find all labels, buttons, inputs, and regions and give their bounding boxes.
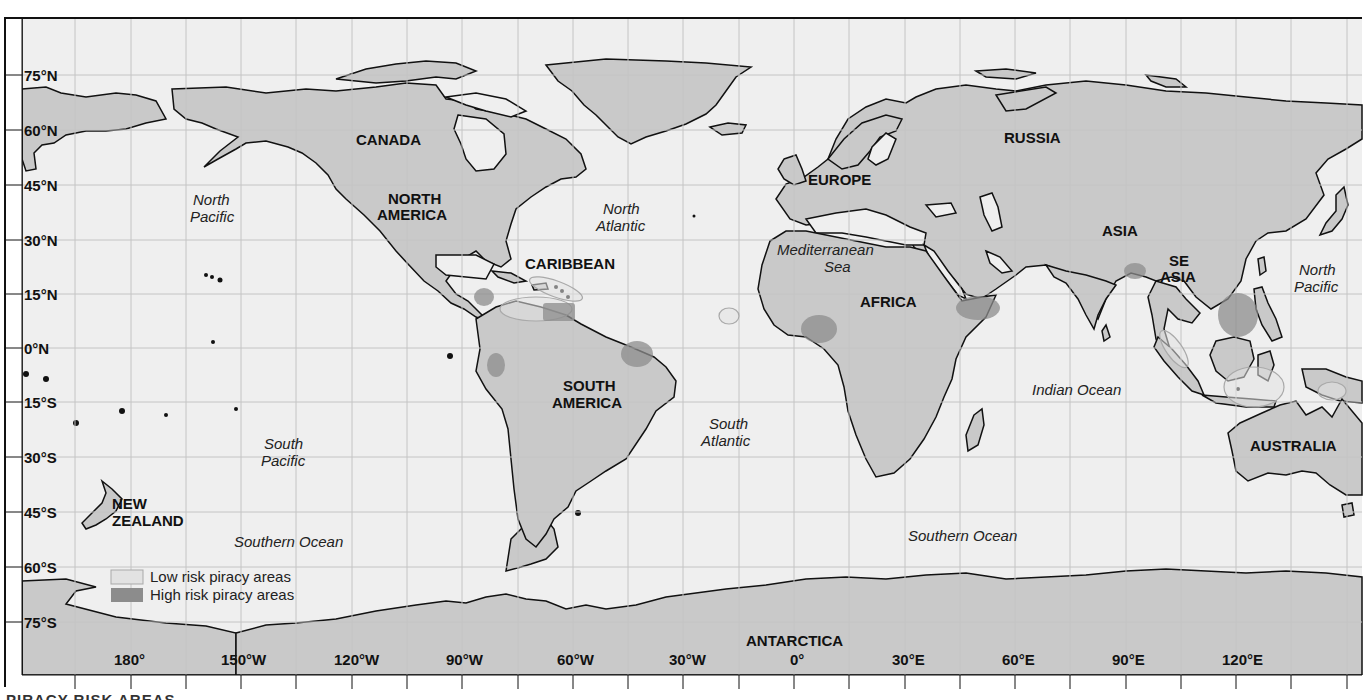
svg-text:North: North: [603, 200, 640, 217]
svg-text:180°: 180°: [114, 651, 145, 668]
world-map: 75°N 60°N 45°N 30°N 15°N 0°N 15°S 30°S 4…: [6, 19, 1364, 689]
svg-text:ASIA: ASIA: [1160, 268, 1196, 285]
svg-text:Atlantic: Atlantic: [700, 432, 751, 449]
svg-text:AMERICA: AMERICA: [552, 394, 622, 411]
svg-text:120°E: 120°E: [1222, 651, 1263, 668]
svg-text:60°S: 60°S: [24, 559, 57, 576]
svg-text:Low risk piracy areas: Low risk piracy areas: [150, 568, 291, 585]
world-map-frame: 75°N 60°N 45°N 30°N 15°N 0°N 15°S 30°S 4…: [4, 17, 1362, 687]
high-risk-south-china-sea: [1218, 293, 1258, 337]
svg-text:Southern Ocean: Southern Ocean: [234, 533, 343, 550]
svg-text:Pacific: Pacific: [1294, 278, 1339, 295]
svg-text:60°W: 60°W: [557, 651, 595, 668]
svg-text:15°N: 15°N: [24, 286, 58, 303]
legend-low-risk-swatch: [111, 570, 143, 584]
svg-text:60°N: 60°N: [24, 122, 58, 139]
svg-text:AFRICA: AFRICA: [860, 293, 917, 310]
svg-text:90°W: 90°W: [446, 651, 484, 668]
legend-high-risk-swatch: [111, 588, 143, 602]
svg-text:75°N: 75°N: [24, 67, 58, 84]
svg-text:Pacific: Pacific: [190, 208, 235, 225]
svg-text:ZEALAND: ZEALAND: [112, 512, 184, 529]
svg-text:SE: SE: [1169, 252, 1189, 269]
svg-text:0°N: 0°N: [24, 340, 49, 357]
svg-text:CANADA: CANADA: [356, 131, 421, 148]
low-risk-papua: [1318, 382, 1346, 400]
svg-text:30°W: 30°W: [669, 651, 707, 668]
svg-text:RUSSIA: RUSSIA: [1004, 129, 1061, 146]
svg-text:Southern Ocean: Southern Ocean: [908, 527, 1017, 544]
svg-text:60°E: 60°E: [1002, 651, 1035, 668]
high-risk-bay-of-bengal: [1124, 263, 1146, 279]
svg-text:30°S: 30°S: [24, 449, 57, 466]
low-risk-cape-verde: [719, 308, 739, 324]
svg-text:Sea: Sea: [824, 258, 851, 275]
svg-text:Mediterranean: Mediterranean: [777, 241, 874, 258]
svg-text:North: North: [193, 191, 230, 208]
svg-text:SOUTH: SOUTH: [563, 377, 616, 394]
svg-text:ANTARCTICA: ANTARCTICA: [746, 632, 843, 649]
high-risk-venezuela: [543, 303, 575, 321]
svg-text:120°W: 120°W: [334, 651, 380, 668]
svg-text:30°E: 30°E: [892, 651, 925, 668]
svg-text:EUROPE: EUROPE: [808, 171, 871, 188]
high-risk-ne-brazil: [621, 341, 653, 367]
svg-text:NORTH: NORTH: [388, 190, 441, 207]
svg-text:0°: 0°: [790, 651, 804, 668]
svg-text:Pacific: Pacific: [261, 452, 306, 469]
tasmania: [1342, 503, 1354, 517]
svg-text:30°N: 30°N: [24, 232, 58, 249]
svg-text:AUSTRALIA: AUSTRALIA: [1250, 437, 1337, 454]
svg-text:South: South: [709, 415, 748, 432]
svg-text:NEW: NEW: [112, 495, 148, 512]
low-risk-indonesia: [1224, 367, 1284, 407]
svg-text:South: South: [264, 435, 303, 452]
svg-text:AMERICA: AMERICA: [377, 206, 447, 223]
svg-text:ASIA: ASIA: [1102, 222, 1138, 239]
high-risk-ecuador: [487, 353, 505, 377]
svg-text:15°S: 15°S: [24, 394, 57, 411]
svg-text:Atlantic: Atlantic: [595, 217, 646, 234]
svg-text:North: North: [1299, 261, 1336, 278]
high-risk-gulf-of-aden: [956, 296, 1000, 320]
high-risk-central-america: [474, 288, 494, 306]
svg-text:Indian Ocean: Indian Ocean: [1032, 381, 1121, 398]
svg-text:150°W: 150°W: [221, 651, 267, 668]
map-caption: PIRACY RISK AREAS: [6, 690, 176, 700]
svg-text:CARIBBEAN: CARIBBEAN: [525, 255, 615, 272]
svg-text:45°S: 45°S: [24, 504, 57, 521]
svg-text:45°N: 45°N: [24, 177, 58, 194]
svg-text:90°E: 90°E: [1112, 651, 1145, 668]
svg-text:High risk piracy areas: High risk piracy areas: [150, 586, 294, 603]
svg-text:75°S: 75°S: [24, 614, 57, 631]
high-risk-gulf-of-guinea: [801, 315, 837, 343]
